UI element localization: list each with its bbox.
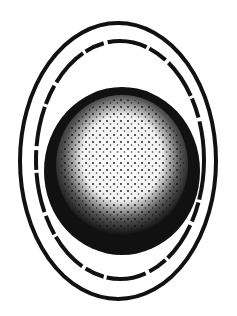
stipple-texture [60, 99, 184, 231]
stippled-oval-illustration [0, 0, 237, 316]
illustration-graphic [0, 0, 237, 316]
